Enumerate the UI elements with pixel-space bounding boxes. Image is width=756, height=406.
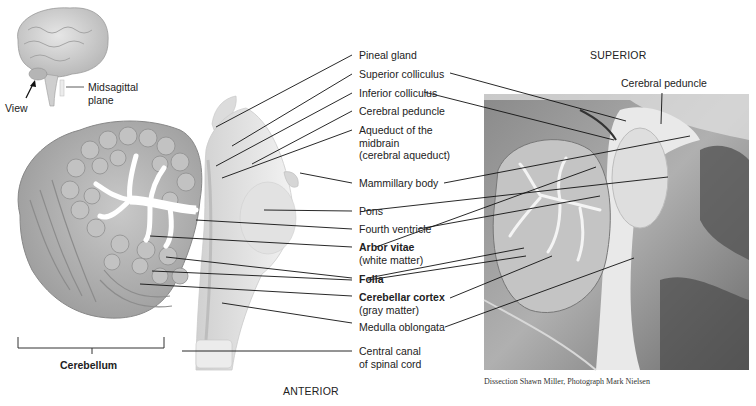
superior-orientation-label: SUPERIOR bbox=[590, 49, 646, 61]
label-cerebral-aqueduct-line3: (cerebral aqueduct) bbox=[359, 149, 450, 162]
photo-cerebral-peduncle-label: Cerebral peduncle bbox=[621, 77, 707, 90]
cerebellum-illustration bbox=[18, 121, 202, 318]
label-superior-colliculus: Superior colliculus bbox=[359, 68, 444, 81]
label-central-canal-line2: of spinal cord bbox=[359, 358, 421, 371]
label-cerebral-peduncle: Cerebral peduncle bbox=[359, 105, 445, 118]
view-label: View bbox=[5, 102, 28, 115]
label-folia: Folia bbox=[359, 273, 384, 286]
label-medulla-oblongata: Medulla oblongata bbox=[359, 321, 445, 334]
photo-credit: Dissection Shawn Miller, Photograph Mark… bbox=[484, 377, 650, 386]
cerebellum-midsagittal-figure: View Midsagittal plane SUPERIOR ANTERIOR… bbox=[0, 0, 756, 406]
anterior-orientation-label: ANTERIOR bbox=[283, 385, 339, 397]
label-arbor-vitae-line2: (white matter) bbox=[359, 254, 423, 267]
label-central-canal: Central canal of spinal cord bbox=[359, 345, 421, 370]
cerebellum-bracket-label: Cerebellum bbox=[60, 359, 117, 372]
midsagittal-plane-line2: plane bbox=[88, 94, 138, 107]
dissection-photograph bbox=[484, 94, 749, 370]
label-cerebellar-cortex: Cerebellar cortex (gray matter) bbox=[359, 291, 445, 316]
label-pineal-gland: Pineal gland bbox=[359, 49, 417, 62]
midsagittal-plane-line1: Midsagittal bbox=[88, 81, 138, 94]
label-arbor-vitae-line1: Arbor vitae bbox=[359, 241, 423, 254]
label-cerebral-aqueduct-line2: midbrain bbox=[359, 137, 450, 150]
label-pons: Pons bbox=[359, 205, 383, 218]
label-cerebellar-cortex-line2: (gray matter) bbox=[359, 304, 445, 317]
label-cerebral-aqueduct: Aqueduct of the midbrain (cerebral aqued… bbox=[359, 124, 450, 162]
label-arbor-vitae: Arbor vitae (white matter) bbox=[359, 241, 423, 266]
label-mammillary-body: Mammillary body bbox=[359, 177, 438, 190]
midsagittal-plane-label: Midsagittal plane bbox=[88, 81, 138, 106]
label-inferior-colliculus: Inferior colliculus bbox=[359, 87, 437, 100]
label-central-canal-line1: Central canal bbox=[359, 345, 421, 358]
cerebellum-bracket bbox=[18, 337, 164, 354]
label-cerebellar-cortex-line1: Cerebellar cortex bbox=[359, 291, 445, 304]
label-fourth-ventricle: Fourth ventricle bbox=[359, 223, 431, 236]
label-cerebral-aqueduct-line1: Aqueduct of the bbox=[359, 124, 450, 137]
